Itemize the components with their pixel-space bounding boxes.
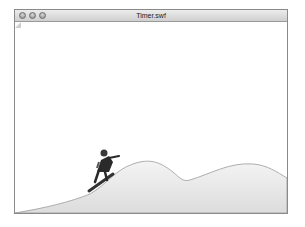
resize-grip-icon[interactable] [15, 22, 21, 28]
snow-hills-scene [15, 22, 287, 213]
flash-stage[interactable] [15, 22, 287, 213]
title-bar[interactable]: Timer.swf [15, 10, 287, 22]
hill-shape [15, 161, 287, 213]
window-title: Timer.swf [15, 10, 287, 21]
app-window: Timer.swf [14, 9, 288, 214]
